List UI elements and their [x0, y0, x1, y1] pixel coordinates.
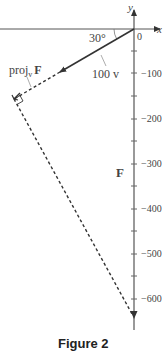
y-tick-label: −400 — [141, 203, 162, 214]
y-tick-label: −600 — [141, 293, 162, 304]
figure-caption: Figure 2 — [58, 336, 109, 351]
y-tick-label: −200 — [141, 113, 162, 124]
force-arrowhead-icon — [131, 311, 138, 319]
vector-v-label: 100 v — [92, 67, 119, 81]
y-tick-label: −300 — [141, 158, 162, 169]
origin-label: 0 — [137, 31, 142, 42]
angle-label: 30° — [89, 31, 106, 45]
projection-label: projvF — [9, 63, 42, 79]
y-tick-label: −100 — [141, 68, 162, 79]
y-axis — [131, 9, 137, 330]
leader-line — [101, 55, 106, 66]
force-label: F — [116, 165, 124, 180]
force-component-line — [14, 99, 132, 314]
y-axis-label: y — [127, 1, 133, 13]
x-axis-label: x — [156, 23, 162, 35]
angle-arc — [114, 29, 117, 39]
y-tick-label: −500 — [141, 248, 162, 259]
